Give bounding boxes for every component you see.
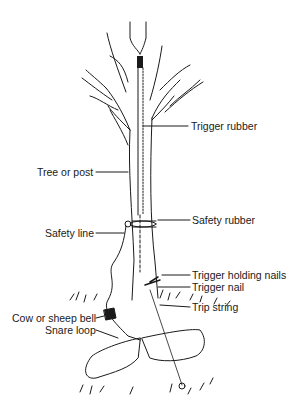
snare-trap-illustration [0, 0, 298, 404]
snare-loop-right [142, 330, 204, 361]
label-tree-or-post: Tree or post [37, 166, 93, 178]
snare-loop-left [86, 338, 140, 378]
label-safety-rubber: Safety rubber [192, 214, 255, 226]
label-trigger-nail: Trigger nail [192, 281, 244, 293]
label-trigger-rubber: Trigger rubber [191, 120, 257, 132]
tree-trunk [129, 118, 158, 300]
label-trip-string: Trip string [192, 301, 238, 313]
label-snare-loop: Snare loop [45, 324, 96, 336]
trigger-rubber-cord [137, 56, 143, 272]
bell-shape [104, 308, 116, 320]
safety-line-cord [106, 226, 140, 340]
label-cow-or-sheep-bell: Cow or sheep bell [12, 312, 96, 324]
label-safety-line: Safety line [45, 227, 94, 239]
trip-string-cord [150, 290, 182, 385]
label-trigger-holding-nails: Trigger holding nails [192, 269, 286, 281]
